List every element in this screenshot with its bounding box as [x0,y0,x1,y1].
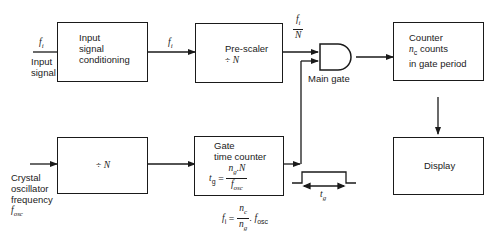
frequency-equation: fi = ncng. fosc [222,203,268,234]
display-block: Display [393,137,484,195]
frequency-counter-diagram: fi Input signal Input signal conditionin… [0,0,500,237]
prescaled-frequency-label: fiN [293,14,303,41]
input-conditioning-block: Input signal conditioning [57,22,148,82]
prescaler-block: Pre-scaler ÷ N [195,23,283,83]
input-fi-label: fi [39,37,44,52]
and-gate-icon [320,44,351,70]
gate-time-counter-block: Gate time counter tg = ng.Nfosc [194,136,284,196]
conditioned-fi-label: fi [168,37,173,52]
pulse-width-label: tg [320,189,326,204]
gate-time-formula: tg = ng.Nfosc [209,163,247,194]
divider-block: ÷ N [57,137,148,194]
input-signal-label: Input signal [31,56,56,78]
counter-block: Counter nc counts in gate period [393,22,484,81]
oscillator-label: Crystal oscillator frequency fosc [11,172,53,220]
main-gate-label: Main gate [308,73,350,84]
